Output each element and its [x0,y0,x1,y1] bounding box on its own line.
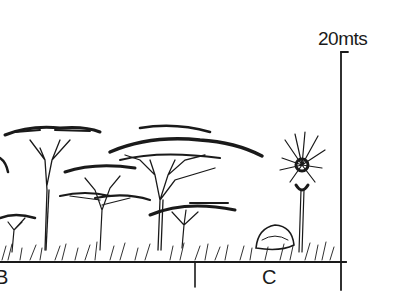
acacia-tree [60,166,150,250]
acacia-tree [150,203,235,248]
rock-outcrop [256,225,294,249]
left-edge-shape [0,158,8,172]
acacia-tree [110,126,262,250]
grass-layer [2,242,334,260]
zone-label-b: B [0,266,8,289]
scale-label: 20mts [318,28,367,50]
zone-label-c: C [262,266,276,289]
scale-bar [336,52,348,290]
acacia-tree [5,127,100,250]
acacia-tree [0,215,35,252]
vegetation-profile-diagram: 20mts B C [0,0,397,306]
fan-palm [280,132,325,252]
